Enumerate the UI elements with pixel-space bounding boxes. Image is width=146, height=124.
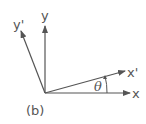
theta-label: θ — [94, 79, 102, 94]
x-prime-axis-label: x' — [127, 65, 138, 80]
y-prime-axis — [21, 31, 45, 93]
x-prime-axis — [45, 71, 125, 93]
x-axis-label: x — [132, 86, 140, 101]
y-axis-label: y — [41, 8, 49, 23]
rotated-axes-diagram: y y' x x' θ (b) — [0, 0, 146, 124]
figure-caption: (b) — [26, 103, 44, 118]
y-prime-axis-label: y' — [13, 17, 24, 32]
